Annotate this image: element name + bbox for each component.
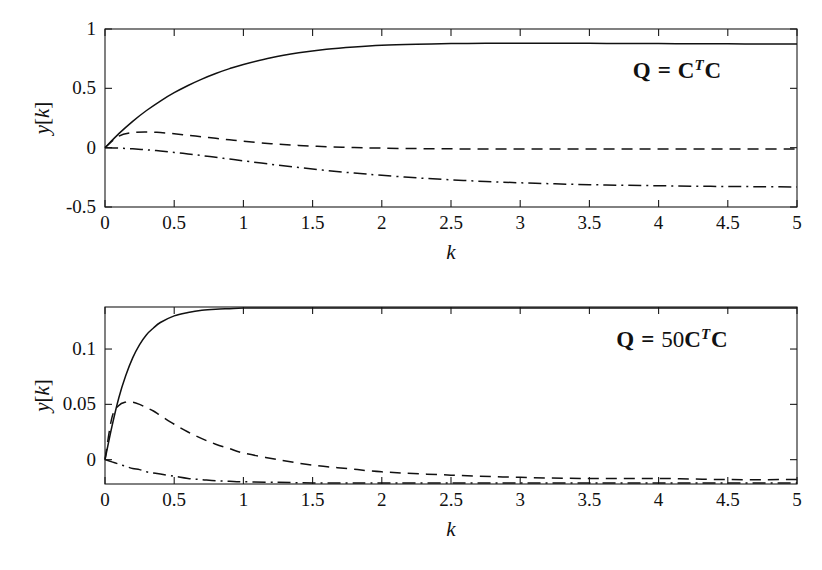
figure-container: 00.511.522.533.544.55-0.500.51ky[k]Q=CTC… (0, 0, 822, 570)
x-tick-label: 1.5 (301, 489, 325, 510)
plot-svg-top: 00.511.522.533.544.55-0.500.51ky[k]Q=CTC (0, 0, 822, 285)
y-tick-label: 0.1 (72, 338, 96, 359)
y-tick-label: 1 (87, 18, 97, 39)
y-tick-label: -0.5 (66, 196, 96, 217)
y-tick-label: 0.05 (63, 393, 96, 414)
panel-annotation: Q=50CTC (616, 326, 727, 352)
plot-panel-bottom: 00.511.522.533.544.5500.050.1ky[k]Q=50CT… (0, 285, 822, 570)
x-tick-label: 2 (377, 489, 387, 510)
x-tick-label: 3 (515, 212, 525, 233)
x-tick-label: 2 (377, 212, 387, 233)
y-axis-title: y[k] (30, 379, 54, 414)
x-tick-label: 0 (100, 212, 110, 233)
x-tick-label: 5 (792, 489, 802, 510)
x-tick-label: 1 (239, 212, 249, 233)
data-curve-y2 (105, 402, 797, 480)
y-tick-label: 0 (87, 137, 97, 158)
plot-panel-top: 00.511.522.533.544.55-0.500.51ky[k]Q=CTC (0, 0, 822, 285)
x-tick-label: 4 (654, 212, 664, 233)
y-axis-title: y[k] (30, 102, 54, 137)
data-curve-y3 (105, 148, 797, 187)
axes-frame (105, 29, 797, 207)
x-tick-label: 0.5 (162, 489, 186, 510)
x-tick-label: 4 (654, 489, 664, 510)
x-tick-label: 4.5 (716, 489, 740, 510)
x-tick-label: 0 (100, 489, 110, 510)
x-tick-label: 3.5 (578, 489, 602, 510)
x-tick-label: 2.5 (439, 212, 463, 233)
panel-annotation: Q=CTC (633, 57, 721, 83)
y-tick-label: 0.5 (72, 77, 96, 98)
x-tick-label: 3 (515, 489, 525, 510)
y-tick-label: 0 (87, 449, 97, 470)
x-tick-label: 1 (239, 489, 249, 510)
x-tick-label: 0.5 (162, 212, 186, 233)
x-tick-label: 2.5 (439, 489, 463, 510)
x-axis-title: k (446, 240, 456, 264)
x-tick-label: 5 (792, 212, 802, 233)
data-curve-y2 (105, 132, 797, 149)
x-tick-label: 4.5 (716, 212, 740, 233)
x-axis-title: k (446, 517, 456, 541)
plot-svg-bottom: 00.511.522.533.544.5500.050.1ky[k]Q=50CT… (0, 285, 822, 570)
y-axis-title-text: y[k] (30, 102, 54, 137)
y-axis-title-text: y[k] (30, 379, 54, 414)
x-tick-label: 1.5 (301, 212, 325, 233)
x-tick-label: 3.5 (578, 212, 602, 233)
